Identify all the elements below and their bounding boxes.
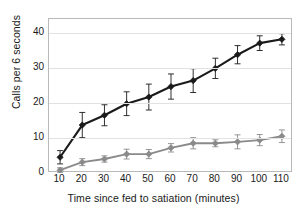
- y-tick-label: 20: [20, 97, 44, 107]
- y-tick-label: 40: [20, 27, 44, 37]
- y-tick-label: 0: [20, 167, 44, 177]
- chart-figure: Calls per 6 seconds 010203040 1020304050…: [0, 0, 307, 217]
- series-line: [60, 136, 282, 170]
- x-axis-label: Time since fed to satiation (minutes): [0, 192, 307, 204]
- data-point-marker: [234, 139, 240, 145]
- gridline: [49, 68, 291, 69]
- gridline: [49, 103, 291, 104]
- x-tick-label: 30: [98, 174, 109, 184]
- data-point-marker: [79, 159, 85, 165]
- x-tick-label: 20: [76, 174, 87, 184]
- x-tick-label: 90: [231, 174, 242, 184]
- data-point-marker: [212, 140, 218, 146]
- x-tick-label: 40: [120, 174, 131, 184]
- y-axis-tick-labels: 010203040: [20, 0, 44, 217]
- gridline: [49, 138, 291, 139]
- x-tick-label: 80: [209, 174, 220, 184]
- data-point-marker: [101, 156, 107, 162]
- y-tick-label: 30: [20, 62, 44, 72]
- x-tick-label: 10: [54, 174, 65, 184]
- data-point-marker: [146, 151, 152, 157]
- x-tick-label: 110: [273, 174, 289, 184]
- data-point-marker: [190, 140, 196, 146]
- x-tick-label: 100: [250, 174, 267, 184]
- y-tick-label: 10: [20, 132, 44, 142]
- gray-series-group: [57, 130, 285, 173]
- data-point-marker: [279, 36, 285, 42]
- x-tick-label: 60: [164, 174, 175, 184]
- x-tick-label: 50: [142, 174, 153, 184]
- series-canvas: [49, 19, 293, 173]
- data-point-marker: [168, 145, 174, 151]
- plot-area: [48, 18, 292, 172]
- x-tick-label: 70: [187, 174, 198, 184]
- gridline: [49, 33, 291, 34]
- x-axis-tick-labels: 102030405060708090100110: [48, 174, 292, 188]
- data-point-marker: [124, 151, 130, 157]
